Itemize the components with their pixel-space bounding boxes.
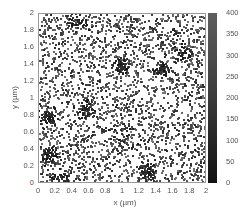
x-tick-label: 2 <box>196 186 216 195</box>
colorbar-tick-label: 100 <box>226 136 239 145</box>
y-tick-label: 0.6 <box>14 127 34 136</box>
colorbar-tick-label: 0 <box>226 178 230 187</box>
scatter-plot-area <box>38 13 206 183</box>
y-tick-label: 0.2 <box>14 161 34 170</box>
y-tick-label: 0.4 <box>14 144 34 153</box>
y-tick-label: 2 <box>14 8 34 17</box>
scatter-points <box>39 14 206 183</box>
colorbar-tick-label: 250 <box>226 72 239 81</box>
y-tick-label: 1.4 <box>14 59 34 68</box>
colorbar-tick-label: 50 <box>226 157 234 166</box>
y-axis-label: y (µm) <box>10 78 19 118</box>
colorbar-tick-label: 200 <box>226 93 239 102</box>
colorbar-tick-label: 400 <box>226 8 239 17</box>
x-axis-label: x (µm) <box>100 198 150 207</box>
y-tick-label: 1.8 <box>14 25 34 34</box>
colorbar-tick-label: 350 <box>226 29 239 38</box>
y-tick-label: 1.6 <box>14 42 34 51</box>
colorbar <box>208 13 217 183</box>
colorbar-tick-label: 300 <box>226 51 239 60</box>
colorbar-tick-label: 150 <box>226 114 239 123</box>
